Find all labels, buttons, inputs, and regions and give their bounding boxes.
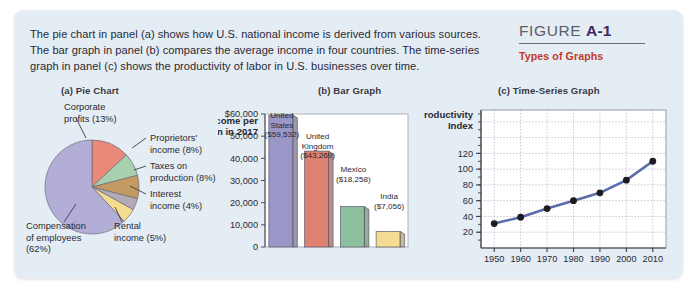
bar-side-shadow [400, 231, 405, 247]
time-series-x-tick-label: 1980 [563, 254, 583, 264]
time-series-x-tick-label: 1970 [537, 254, 557, 264]
time-series-graph: 20406080100120 1950196019701980199020002… [424, 96, 689, 276]
bar-category-label-line: Mexico [341, 165, 367, 174]
panel-heading-pie-chart: (a) Pie Chart [61, 85, 119, 96]
time-series-data-point [570, 197, 577, 204]
pie-label-line: (62%) [26, 244, 51, 254]
time-series-y-axis-title-line: Index [448, 120, 474, 131]
time-series-x-tick-label: 1960 [510, 254, 530, 264]
bar-category-label-line: Kingdom [302, 142, 334, 151]
bar-front-face [340, 207, 364, 247]
bar-side-shadow [329, 151, 334, 247]
pie-slices [45, 140, 139, 234]
figure-caption: The pie chart in panel (a) shows how U.S… [30, 26, 502, 75]
pie-label-line: income (8%) [150, 145, 202, 155]
bar-y-tick-label: 40,000 [230, 154, 258, 164]
bar-column [340, 207, 369, 247]
pie-label-line: Proprietors' [150, 133, 197, 143]
bar-y-axis-title-line: Income per [218, 115, 258, 126]
bar-column [305, 151, 334, 247]
time-series-data-point [649, 158, 656, 165]
pie-label-line: Compensation [26, 221, 86, 231]
bar-value-label: ($18,258) [336, 175, 371, 184]
pie-label-line: production (8%) [150, 173, 216, 183]
time-series-plot-area [481, 110, 666, 248]
time-series-y-tick-label: 60 [463, 196, 473, 206]
time-series-y-tick-label: 100 [458, 164, 473, 174]
bar-value-label: ($59,532) [265, 130, 300, 139]
time-series-data-point [597, 189, 604, 196]
time-series-x-tick-label: 1990 [590, 254, 610, 264]
bar-y-tick-label: 10,000 [230, 220, 258, 230]
time-series-x-axis: 1950196019701980199020002010 [481, 248, 666, 264]
bar-front-face [376, 231, 400, 247]
bar-column [376, 231, 405, 247]
figure-title-block: FIGURE A-1 Types of Graphs [519, 22, 669, 62]
pie-label-line: of employees [26, 233, 82, 243]
bar-category-label-line: States [270, 121, 293, 130]
pie-label: Taxes onproduction (8%) [150, 161, 216, 183]
bar-y-axis-title-line: Person in 2017 [218, 126, 258, 137]
pie-label-line: Rental [114, 221, 141, 231]
pie-chart: Corporateprofits (13%)Proprietors'income… [18, 98, 218, 278]
time-series-y-axis-title-line: Productivity [424, 109, 474, 120]
bar-category-label-line: United [270, 111, 293, 120]
time-series-x-tick-label: 2000 [616, 254, 636, 264]
bar-value-label: ($7,056) [374, 202, 404, 211]
pie-label: Corporateprofits (13%) [64, 102, 117, 124]
panel-heading-time-series-graph: (c) Time-Series Graph [498, 85, 600, 96]
pie-label-line: income (5%) [114, 233, 166, 243]
pie-label-line: Corporate [64, 102, 105, 112]
time-series-y-tick-label: 40 [463, 212, 473, 222]
time-series-y-axis-title: ProductivityIndex [424, 109, 474, 131]
bar-y-tick-label: 30,000 [230, 176, 258, 186]
bar-category-label: Mexico($18,258) [336, 165, 371, 184]
figure-title-divider [519, 43, 645, 44]
figure-label-word: FIGURE [519, 22, 581, 39]
figure-a1-graphs: The pie chart in panel (a) shows how U.S… [0, 0, 697, 293]
bar-value-label: ($43,269) [300, 151, 335, 160]
pie-label-line: income (4%) [150, 201, 202, 211]
pie-leader-line [132, 138, 146, 148]
time-series-x-tick-label: 1950 [484, 254, 504, 264]
time-series-x-tick-label: 2010 [643, 254, 663, 264]
pie-label: Interestincome (4%) [150, 189, 202, 211]
time-series-y-tick-label: 120 [458, 149, 473, 159]
time-series-y-tick-label: 80 [463, 180, 473, 190]
time-series-data-point [544, 205, 551, 212]
pie-label-line: Interest [150, 189, 181, 199]
bar-category-label-line: United [306, 132, 329, 141]
bar-front-face [305, 151, 329, 247]
figure-subtitle: Types of Graphs [519, 50, 669, 62]
pie-label-line: Taxes on [150, 161, 187, 171]
time-series-data-point [491, 220, 498, 227]
bar-category-label-line: India [380, 192, 398, 201]
bar-y-axis-title: Income perPerson in 2017 [218, 115, 258, 137]
time-series-y-tick-label: 20 [463, 227, 473, 237]
time-series-data-point [623, 177, 630, 184]
panel-heading-bar-graph: (b) Bar Graph [318, 85, 381, 96]
pie-label: Rentalincome (5%) [114, 221, 166, 243]
pie-label-line: profits (13%) [64, 114, 117, 124]
bar-side-shadow [364, 207, 369, 247]
bar-y-tick-label: 20,000 [230, 198, 258, 208]
pie-leader-line [134, 166, 146, 170]
pie-label: Proprietors'income (8%) [150, 133, 202, 155]
time-series-data-point [517, 214, 524, 221]
figure-title-line: FIGURE A-1 [519, 22, 669, 40]
bar-y-tick-label: 0 [253, 242, 258, 252]
figure-number: A-1 [586, 22, 612, 39]
pie-label: Compensationof employees(62%) [26, 221, 86, 254]
bar-graph: $60,00050,00040,00030,00020,00010,0000 U… [218, 96, 418, 276]
